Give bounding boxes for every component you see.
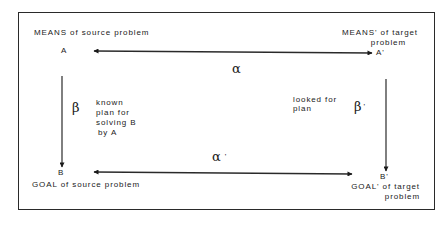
beta-label: β — [72, 101, 80, 115]
alpha-prime-symbol: α — [212, 149, 221, 164]
node-a-caption: MEANS of source problem — [34, 28, 149, 38]
alpha-prime-arrow — [94, 172, 352, 174]
node-b-prime-caption-line1: GOAL' of target — [300, 182, 420, 192]
node-a-prime-caption-line1: MEANS' of target — [300, 28, 418, 38]
node-a-symbol: A — [61, 46, 67, 56]
node-b-symbol: B — [58, 168, 64, 178]
node-a-prime-caption-line2: problem — [300, 38, 406, 48]
beta-note-line1: known — [96, 98, 124, 108]
beta-note-line2: plan for — [96, 108, 130, 118]
alpha-prime-mark: ' — [225, 152, 227, 161]
beta-note-line3: solving B — [96, 118, 137, 128]
node-b-prime-symbol: B' — [380, 172, 389, 182]
node-a-prime-symbol: A' — [376, 48, 385, 58]
node-b-caption: GOAL of source problem — [32, 180, 140, 190]
beta-note-line4: by A — [98, 128, 117, 138]
node-b-prime-caption-line2: problem — [300, 192, 420, 202]
beta-prime-mark: ' — [364, 102, 366, 111]
alpha-prime-label: α' — [212, 150, 226, 164]
beta-prime-symbol: β — [354, 99, 362, 114]
beta-prime-label: β' — [354, 100, 365, 114]
alpha-label: α — [232, 62, 241, 76]
alpha-arrow — [94, 51, 372, 53]
beta-prime-note-line2: plan — [293, 104, 312, 114]
